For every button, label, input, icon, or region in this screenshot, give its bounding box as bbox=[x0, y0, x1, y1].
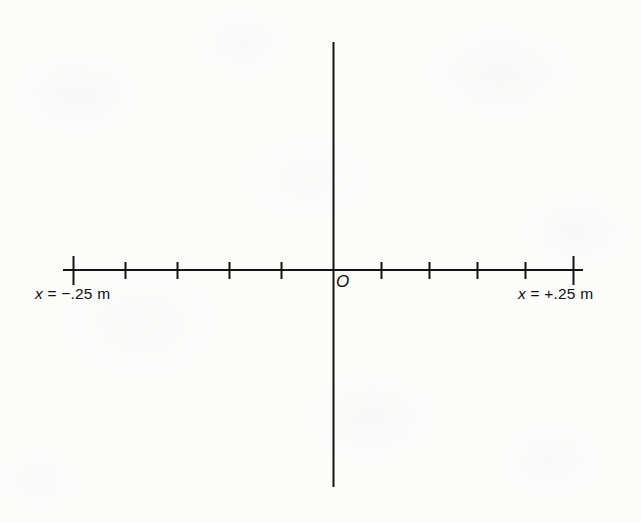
origin-label: O bbox=[336, 272, 349, 292]
right-endpoint-value: +.25 m bbox=[544, 285, 593, 302]
right-endpoint-variable: x bbox=[518, 285, 526, 302]
figure-canvas: O x = −.25 m x = +.25 m bbox=[0, 0, 641, 522]
left-endpoint-label: x = −.25 m bbox=[35, 285, 110, 303]
left-endpoint-value: −.25 m bbox=[61, 285, 110, 302]
left-endpoint-equals: = bbox=[47, 285, 56, 302]
right-endpoint-label: x = +.25 m bbox=[518, 285, 593, 303]
axes-diagram bbox=[0, 0, 641, 522]
right-endpoint-equals: = bbox=[530, 285, 539, 302]
left-endpoint-variable: x bbox=[35, 285, 43, 302]
